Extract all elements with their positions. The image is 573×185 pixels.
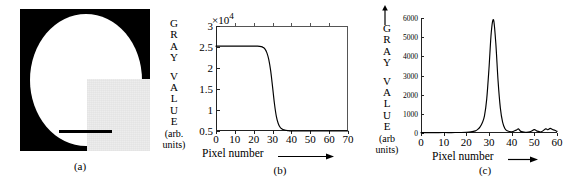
panel-c-x-axis-arrow-icon [508,156,538,163]
panel-b-ytick-label: 1.5 [199,83,216,95]
panel-c: G R A Y V A L U E (arb units) 0 1000 [375,0,573,185]
panel-b-x-axis-arrow-icon [278,153,334,160]
panel-b-xtick-label: 20 [248,131,259,145]
ylabel-units-line2: units) [163,139,186,150]
panel-b-xtick-label: 30 [267,131,278,145]
panel-b-ytick-label: 2 [208,62,217,74]
panel-c-xtick-label: 20 [461,133,472,148]
ylabel-units-line1: (arb [379,133,395,144]
panel-c-ytick-label: 5000 [403,33,421,42]
panel-b-xtick-label: 70 [343,131,354,145]
panel-a: (a) [0,0,160,185]
scale-bar [59,130,112,133]
panel-c-plot-area: 0 1000 2000 3000 4000 5000 6000 0 10 20 … [421,18,557,133]
panel-b-xtick-label: 10 [229,131,240,145]
panel-c-x-axis-title: Pixel number [432,150,494,162]
panel-c-caption: (c) [405,164,565,176]
panel-c-ytick-label: 6000 [403,14,421,23]
panel-c-xtick-label: 60 [552,133,563,148]
ylabel-char: E [171,116,178,127]
panel-c-xtick-label: 30 [484,133,495,148]
panel-c-ytick-label: 2000 [403,90,421,99]
panel-b-plot-area: 0.5 1 1.5 2 2.5 3 0 10 20 30 40 [216,26,348,131]
panel-c-data-curve [421,18,557,133]
panel-b-y-axis-label: G R A Y V A L U E (arb. units) [161,18,187,150]
ylabel-units-line1: (arb. [165,128,184,139]
ylabel-units-line2: units) [376,144,399,155]
panel-c-xtick-label: 40 [506,133,517,148]
figure-container: (a) G R A Y V A L U E (arb. units) ×104 [0,0,573,185]
panel-b-ytick-label: 1 [208,104,217,116]
panel-b-xtick-label: 50 [305,131,316,145]
panel-b-ytick-label: 2.5 [199,41,216,53]
panel-b-caption: (b) [200,164,360,176]
ylabel-char: E [384,121,391,132]
sample-image [20,9,150,151]
panel-c-y-axis-label: G R A Y V A L U E (arb units) [376,23,398,155]
panel-c-xtick-label: 0 [418,133,424,148]
panel-c-ytick-label: 3000 [403,71,421,80]
panel-c-ytick-label: 4000 [403,52,421,61]
ylabel-char: Y [170,52,178,63]
panel-c-xtick-label: 10 [438,133,449,148]
panel-b-x-axis-title: Pixel number [202,147,264,159]
panel-b-data-curve [216,26,348,131]
panel-b-xtick-label: 60 [324,131,335,145]
gray-square-overlay [87,79,150,151]
panel-c-ytick-label: 1000 [403,109,421,118]
panel-b-xtick-label: 40 [286,131,297,145]
ylabel-char: Y [383,57,391,68]
panel-b: G R A Y V A L U E (arb. units) ×104 0.5 … [160,0,375,185]
multiplier-exponent: 4 [229,11,234,21]
panel-a-caption: (a) [0,160,160,172]
panel-b-ytick-label: 3 [208,20,217,32]
panel-c-xtick-label: 50 [529,133,540,148]
panel-b-xtick-label: 0 [213,131,219,145]
